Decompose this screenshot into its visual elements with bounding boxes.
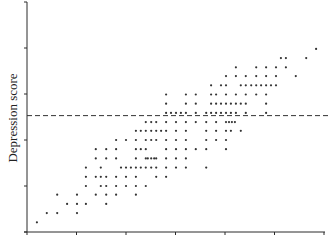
data-point xyxy=(105,148,107,150)
data-point xyxy=(255,84,257,86)
data-point xyxy=(275,84,277,86)
data-point xyxy=(185,148,187,150)
data-point xyxy=(255,93,257,95)
data-point xyxy=(135,130,137,132)
data-point xyxy=(265,103,267,105)
data-point xyxy=(215,130,217,132)
data-point xyxy=(240,130,242,132)
data-point xyxy=(225,103,227,105)
data-point xyxy=(175,167,177,169)
data-point xyxy=(147,157,149,159)
data-point xyxy=(265,112,267,114)
data-point xyxy=(175,157,177,159)
data-point xyxy=(225,84,227,86)
data-point xyxy=(95,194,97,196)
y-axis-label: Depression score xyxy=(5,73,20,162)
data-point xyxy=(185,103,187,105)
data-point xyxy=(46,212,48,214)
data-point xyxy=(225,130,227,132)
data-point xyxy=(66,203,68,205)
data-point xyxy=(175,130,177,132)
data-point xyxy=(205,121,207,123)
data-point xyxy=(155,139,157,141)
data-point xyxy=(265,93,267,95)
data-point xyxy=(185,139,187,141)
data-point xyxy=(145,130,147,132)
data-point xyxy=(228,121,230,123)
data-point xyxy=(125,176,127,178)
data-point xyxy=(220,112,222,114)
data-point xyxy=(270,84,272,86)
data-point xyxy=(225,75,227,77)
data-point xyxy=(125,167,127,169)
data-point xyxy=(195,93,197,95)
data-point xyxy=(245,112,247,114)
data-point xyxy=(165,103,167,105)
data-point xyxy=(100,176,102,178)
data-point xyxy=(76,212,78,214)
data-point xyxy=(115,194,117,196)
data-point xyxy=(150,167,152,169)
data-point xyxy=(145,157,147,159)
data-point xyxy=(210,103,212,105)
data-point xyxy=(305,57,307,59)
data-point xyxy=(185,130,187,132)
data-point xyxy=(165,148,167,150)
data-point xyxy=(145,185,147,187)
data-point xyxy=(115,148,117,150)
data-point xyxy=(275,66,277,68)
data-point xyxy=(120,167,122,169)
data-point xyxy=(230,112,232,114)
data-point xyxy=(95,176,97,178)
data-point xyxy=(165,93,167,95)
data-point xyxy=(185,112,187,114)
data-point xyxy=(185,93,187,95)
data-point xyxy=(105,185,107,187)
data-point xyxy=(165,176,167,178)
data-point xyxy=(155,157,157,159)
data-point xyxy=(235,93,237,95)
data-point xyxy=(150,121,152,123)
data-point xyxy=(95,148,97,150)
data-point xyxy=(210,84,212,86)
data-point xyxy=(175,121,177,123)
data-point xyxy=(36,221,38,223)
data-point xyxy=(155,121,157,123)
data-point xyxy=(150,130,152,132)
data-point xyxy=(115,176,117,178)
data-point xyxy=(145,139,147,141)
data-point xyxy=(153,157,155,159)
data-point xyxy=(235,75,237,77)
data-point xyxy=(135,148,137,150)
data-point xyxy=(76,203,78,205)
data-point xyxy=(135,185,137,187)
data-point xyxy=(195,121,197,123)
data-point xyxy=(130,167,132,169)
data-point xyxy=(160,130,162,132)
data-point xyxy=(220,84,222,86)
data-point xyxy=(165,139,167,141)
data-point xyxy=(234,121,236,123)
data-point xyxy=(85,203,87,205)
data-point xyxy=(245,84,247,86)
data-point xyxy=(105,157,107,159)
data-point xyxy=(165,121,167,123)
data-point xyxy=(225,93,227,95)
data-point xyxy=(275,75,277,77)
data-point xyxy=(235,112,237,114)
data-point xyxy=(240,103,242,105)
data-point xyxy=(205,139,207,141)
data-point xyxy=(155,167,157,169)
data-point xyxy=(165,130,167,132)
data-point xyxy=(265,84,267,86)
data-point xyxy=(250,84,252,86)
data-point xyxy=(145,167,147,169)
data-point xyxy=(105,176,107,178)
data-points xyxy=(36,48,317,224)
data-point xyxy=(210,112,212,114)
data-point xyxy=(225,112,227,114)
data-point xyxy=(231,121,233,123)
data-point xyxy=(175,148,177,150)
data-point xyxy=(155,176,157,178)
data-point xyxy=(185,121,187,123)
